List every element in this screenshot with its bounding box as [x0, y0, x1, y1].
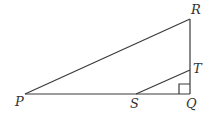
triangle-diagram: P S Q T R [0, 0, 211, 117]
segment-PR [25, 19, 190, 94]
label-Q: Q [186, 96, 197, 111]
label-R: R [190, 2, 201, 17]
right-angle-marker-icon [179, 84, 190, 94]
segment-ST [136, 70, 190, 94]
label-P: P [14, 94, 24, 109]
label-T: T [193, 61, 203, 76]
label-S: S [130, 96, 139, 111]
